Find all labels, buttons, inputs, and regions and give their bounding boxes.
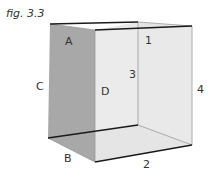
label-C: C (36, 80, 44, 93)
label-3: 3 (129, 68, 136, 81)
label-4: 4 (197, 83, 204, 96)
label-B: B (64, 152, 72, 165)
front-wall (95, 26, 192, 162)
top-back-edge (50, 22, 138, 24)
label-1: 1 (145, 34, 152, 47)
label-2: 2 (143, 158, 150, 171)
open-box-diagram: A C D B 1 3 4 2 (0, 0, 210, 177)
label-D: D (101, 85, 109, 98)
label-A: A (65, 35, 73, 48)
